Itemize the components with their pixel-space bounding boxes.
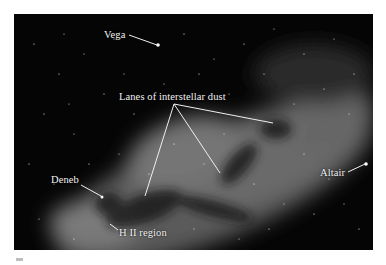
label-altair: Altair xyxy=(320,167,345,178)
label-vega: Vega xyxy=(104,29,125,40)
label-h2-region: H II region xyxy=(119,227,167,238)
sky-image xyxy=(14,14,373,250)
label-dust-lanes: Lanes of interstellar dust xyxy=(119,91,226,102)
milky-way-photo: Vega Lanes of interstellar dust Altair D… xyxy=(14,14,373,250)
label-deneb: Deneb xyxy=(51,174,79,185)
clipped-caption-fragment xyxy=(16,258,23,261)
